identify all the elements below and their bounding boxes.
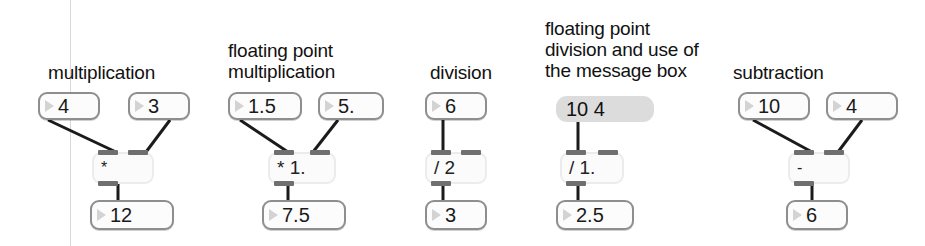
- numberbox-triangle-icon: [235, 100, 244, 112]
- numberbox-value: 5.: [338, 95, 355, 118]
- numberbox-input-1[interactable]: 1.5: [228, 92, 302, 120]
- caption-float-multiplication: floating point multiplication: [228, 40, 335, 82]
- numberbox-input-1[interactable]: 6: [425, 92, 487, 120]
- numberbox-value: 12: [110, 204, 132, 227]
- numberbox-triangle-icon: [325, 100, 334, 112]
- numberbox-value: 3: [148, 95, 159, 118]
- numberbox-triangle-icon: [97, 209, 106, 221]
- objectbox-text: * 1.: [277, 157, 306, 179]
- inlet-left[interactable]: [98, 150, 118, 155]
- numberbox-triangle-icon: [793, 209, 802, 221]
- numberbox-triangle-icon: [745, 100, 754, 112]
- inlet-left[interactable]: [431, 150, 451, 155]
- inlet-right[interactable]: [598, 150, 618, 155]
- inlet-left[interactable]: [566, 150, 586, 155]
- cord-right: [146, 120, 170, 152]
- numberbox-value: 7.5: [282, 204, 310, 227]
- outlet-left[interactable]: [794, 181, 814, 186]
- caption-multiplication: multiplication: [48, 62, 155, 83]
- numberbox-triangle-icon: [432, 209, 441, 221]
- numberbox-value: 4: [58, 95, 69, 118]
- objectbox-operator[interactable]: * 1.: [268, 152, 336, 184]
- numberbox-triangle-icon: [269, 209, 278, 221]
- objectbox-operator[interactable]: *: [92, 152, 154, 184]
- cord-left: [753, 120, 812, 152]
- numberbox-triangle-icon: [432, 100, 441, 112]
- messagebox-input[interactable]: 10 4: [556, 96, 654, 122]
- objectbox-operator[interactable]: / 2: [425, 152, 487, 184]
- objectbox-text: -: [797, 159, 802, 177]
- caption-float-division-message-box: floating point division and use of the m…: [545, 18, 699, 81]
- cord-left: [48, 120, 116, 152]
- numberbox-triangle-icon: [135, 100, 144, 112]
- objectbox-text: *: [101, 159, 107, 177]
- cord-left: [240, 120, 288, 152]
- numberbox-input-1[interactable]: 4: [38, 92, 100, 120]
- outlet-left[interactable]: [431, 181, 451, 186]
- numberbox-value: 4: [846, 95, 857, 118]
- pd-patch-canvas: multiplication 4 3 * 12 floating point m…: [0, 0, 925, 246]
- objectbox-operator[interactable]: / 1.: [560, 152, 624, 184]
- messagebox-text: 10 4: [566, 98, 605, 121]
- inlet-right[interactable]: [310, 150, 330, 155]
- objectbox-text: / 2: [434, 157, 455, 179]
- inlet-left[interactable]: [794, 150, 814, 155]
- objectbox-operator[interactable]: -: [788, 152, 850, 184]
- numberbox-triangle-icon: [45, 100, 54, 112]
- numberbox-result[interactable]: 2.5: [556, 200, 634, 230]
- outlet-left[interactable]: [274, 181, 294, 186]
- cord-right: [313, 120, 338, 152]
- outlet-left[interactable]: [566, 181, 586, 186]
- page-guide-line: [70, 0, 71, 246]
- inlet-left[interactable]: [274, 150, 294, 155]
- numberbox-input-2[interactable]: 4: [826, 92, 898, 120]
- numberbox-triangle-icon: [833, 100, 842, 112]
- numberbox-value: 6: [806, 204, 817, 227]
- caption-division: division: [430, 62, 492, 83]
- numberbox-result[interactable]: 12: [90, 200, 174, 230]
- numberbox-result[interactable]: 7.5: [262, 200, 346, 230]
- numberbox-value: 3: [445, 204, 456, 227]
- inlet-right[interactable]: [461, 150, 481, 155]
- inlet-right[interactable]: [128, 150, 148, 155]
- numberbox-value: 10: [758, 95, 780, 118]
- numberbox-result[interactable]: 3: [425, 200, 487, 230]
- objectbox-text: / 1.: [569, 157, 595, 179]
- numberbox-input-1[interactable]: 10: [738, 92, 810, 120]
- caption-subtraction: subtraction: [733, 62, 824, 83]
- inlet-right[interactable]: [824, 150, 844, 155]
- outlet-left[interactable]: [98, 181, 118, 186]
- numberbox-value: 2.5: [576, 204, 604, 227]
- numberbox-input-2[interactable]: 3: [128, 92, 190, 120]
- numberbox-result[interactable]: 6: [786, 200, 848, 230]
- numberbox-triangle-icon: [563, 209, 572, 221]
- cord-right: [838, 120, 862, 152]
- numberbox-value: 6: [445, 95, 456, 118]
- numberbox-value: 1.5: [248, 95, 276, 118]
- numberbox-input-2[interactable]: 5.: [318, 92, 384, 120]
